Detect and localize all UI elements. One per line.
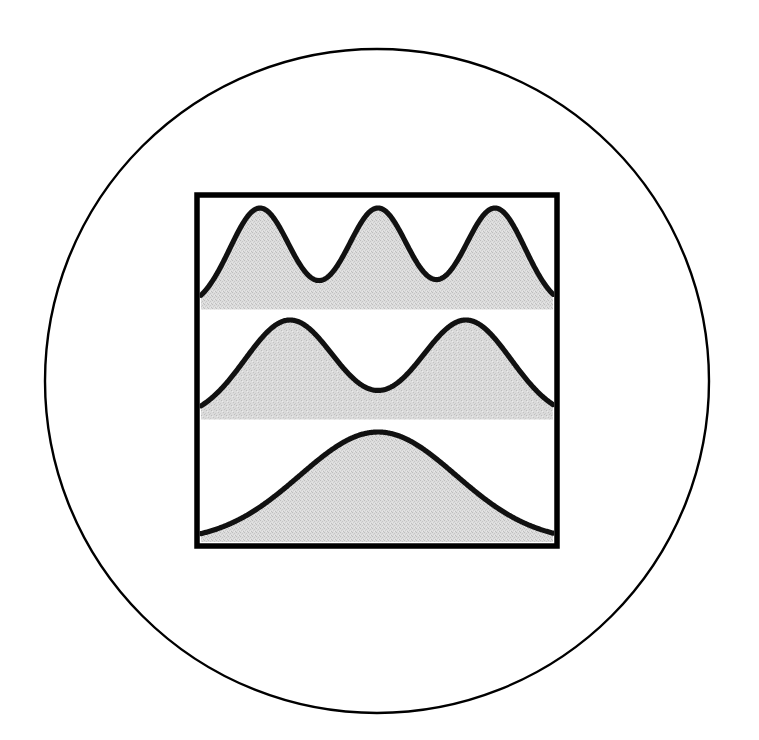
panel-resolved: [201, 208, 553, 310]
figure-root: [0, 0, 759, 740]
panel-resolved-fill: [201, 208, 553, 310]
figure-canvas: [0, 0, 759, 740]
